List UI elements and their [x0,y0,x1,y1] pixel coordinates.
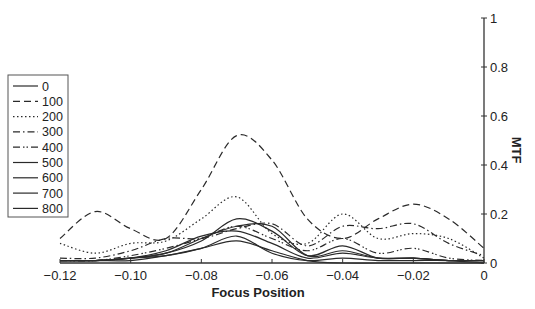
legend-label: 200 [42,110,63,124]
legend-label: 400 [42,141,63,155]
series-line-600 [60,224,484,261]
y-axis-ticks: 00.20.40.60.81 [481,11,508,271]
series-line-700 [60,231,484,261]
legend-label: 600 [42,171,63,185]
series-line-500 [60,219,484,261]
y-tick-label: 0.2 [490,207,508,222]
legend-label: 300 [42,125,63,139]
y-tick-label: 0 [490,256,497,271]
x-axis-title: Focus Position [211,285,304,300]
y-tick-label: 1 [490,11,497,26]
x-tick-label: −0.04 [326,268,359,283]
mtf-chart: −0.12−0.10−0.08−0.06−0.04−0.020 00.20.40… [0,0,535,309]
x-tick-label: −0.08 [185,268,218,283]
legend: 0100200300400500600700800 [8,75,68,217]
y-tick-label: 0.6 [490,109,508,124]
legend-label: 700 [42,187,63,201]
legend-label: 800 [42,202,63,216]
x-tick-label: −0.12 [44,268,77,283]
legend-label: 0 [42,80,49,94]
y-tick-label: 0.4 [490,158,508,173]
x-tick-label: −0.06 [256,268,289,283]
x-tick-label: −0.10 [114,268,147,283]
y-tick-label: 0.8 [490,60,508,75]
legend-label: 500 [42,156,63,170]
legend-label: 100 [42,95,63,109]
series-line-200 [60,197,484,258]
x-tick-label: 0 [480,268,487,283]
plot-lines [60,135,484,264]
x-tick-label: −0.02 [397,268,430,283]
y-axis-title: MTF [509,137,524,164]
